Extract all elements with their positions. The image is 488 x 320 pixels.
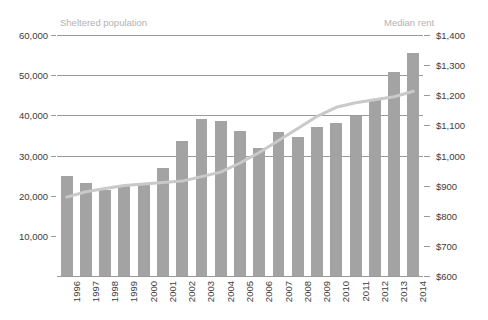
plot-area [57,35,423,276]
bar [99,190,111,276]
x-axis-tick-label: 2002 [186,281,197,302]
bar [215,121,227,276]
axis-baseline [57,276,423,277]
y-axis-right-tick [424,95,430,96]
x-axis-tick-label: 2009 [321,281,332,302]
x-axis-tick-label: 2003 [205,281,216,302]
x-axis-tick-label: 2001 [167,281,178,302]
y-axis-right-tick-label: $1,200 [436,90,465,101]
x-axis-tick-label: 2011 [360,281,371,301]
y-axis-right-tick [424,65,430,66]
bar [196,119,208,276]
y-axis-right-tick [424,125,430,126]
y-axis-right-tick-label: $1,300 [436,60,465,71]
x-axis-tick-label: 2005 [244,281,255,302]
bar [311,127,323,276]
x-axis-tick-label: 2006 [263,281,274,302]
y-axis-right-tick [424,216,430,217]
gridline [57,35,423,36]
gridline [57,75,423,76]
x-axis-tick-label: 2014 [417,281,428,302]
bar [388,72,400,276]
y-axis-right-tick-label: $600 [436,271,457,282]
bar [234,131,246,276]
x-axis-tick-label: 1997 [90,281,101,302]
bar [253,148,265,276]
y-axis-right-tick-label: $1,400 [436,30,465,41]
bar [61,176,73,276]
x-axis-tick-label: 2007 [283,281,294,302]
y-axis-right-tick [424,35,430,36]
y-axis-right-tick [424,186,430,187]
x-axis-tick-label: 2010 [340,281,351,302]
y-axis-right-tick-label: $700 [436,240,457,251]
y-axis-right-tick [424,156,430,157]
chart-container: Sheltered population Median rent 10,0002… [0,0,488,320]
bar [407,53,419,276]
x-axis-tick-label: 2013 [398,281,409,302]
x-axis-tick-label: 1999 [128,281,139,302]
bar [118,185,130,276]
bar [138,184,150,276]
y-axis-right-tick-label: $800 [436,210,457,221]
x-axis-tick-label: 2000 [148,281,159,302]
y-axis-right-tick-label: $900 [436,180,457,191]
bar [176,141,188,276]
x-axis-tick-label: 1996 [71,281,82,302]
x-axis-tick-label: 1998 [109,281,120,302]
x-axis-tick-label: 2004 [225,281,236,302]
bar [80,183,92,276]
bar [292,137,304,276]
y-axis-right-tick [424,246,430,247]
x-axis-tick-label: 2008 [302,281,313,302]
y-axis-right-tick [424,276,430,277]
bar [330,123,342,276]
y-axis-right-tick-label: $1,000 [436,150,465,161]
bar [157,168,169,276]
x-axis-tick-label: 2012 [379,281,390,302]
y-axis-right-tick-label: $1,100 [436,120,465,131]
bar [273,132,285,276]
bar [369,100,381,276]
bar [350,116,362,276]
